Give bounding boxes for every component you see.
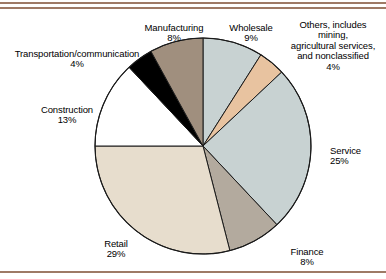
label-transportation-communication: Transportation/communication 4% — [2, 38, 152, 80]
label-service-name: Service — [330, 145, 361, 156]
label-others-percent: 4% — [282, 62, 384, 73]
label-retail-name: Retail — [104, 238, 128, 249]
label-retail: Retail 29% — [86, 228, 146, 270]
label-construction-percent: 13% — [22, 115, 112, 126]
label-retail-percent: 29% — [86, 249, 146, 260]
label-wholesale-name: Wholesale — [229, 22, 272, 33]
label-others: Others, includes mining, agricultural se… — [282, 9, 384, 83]
label-service-percent: 25% — [330, 156, 386, 167]
label-wholesale: Wholesale 9% — [216, 12, 286, 54]
label-service: Service 25% — [330, 135, 386, 177]
label-transportation-percent: 4% — [2, 59, 152, 70]
label-finance-percent: 8% — [272, 257, 342, 268]
pie-chart-figure: Manufacturing 8% Wholesale 9% Others, in… — [0, 0, 386, 279]
label-construction: Construction 13% — [22, 94, 112, 136]
label-manufacturing-name: Manufacturing — [145, 22, 204, 33]
label-wholesale-percent: 9% — [216, 33, 286, 44]
label-finance-name: Finance — [290, 246, 323, 257]
label-finance: Finance 8% — [272, 236, 342, 278]
label-others-name: Others, includes mining, agricultural se… — [291, 19, 375, 62]
label-construction-name: Construction — [41, 104, 93, 115]
label-transportation-name: Transportation/communication — [15, 48, 140, 59]
